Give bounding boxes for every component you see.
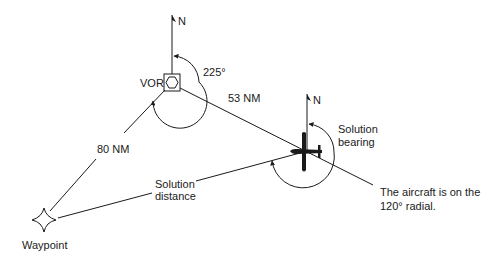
vor-north-reference: N — [172, 15, 186, 74]
solution-distance-label-line1: Solution — [155, 178, 195, 190]
vor-station-icon — [164, 74, 180, 91]
aircraft-icon — [290, 132, 322, 172]
waypoint-vor-distance-label: 80 NM — [97, 143, 129, 155]
radial-angle-label: 225° — [203, 66, 226, 78]
vor-north-label: N — [178, 15, 186, 27]
waypoint-vor-line-lower — [50, 159, 96, 211]
waypoint-label: Waypoint — [22, 239, 67, 251]
north-arrow-icon — [172, 15, 176, 22]
solution-bearing-label-line2: bearing — [338, 136, 375, 148]
vor-label: VOR — [140, 77, 164, 89]
aircraft-north-label: N — [313, 94, 321, 106]
aircraft-note-line2: 120° radial. — [380, 200, 436, 212]
waypoint-vor-line-upper — [124, 90, 165, 133]
solution-distance-label-line2: distance — [155, 190, 196, 202]
solution-bearing-arc-start — [309, 124, 334, 152]
solution-bearing-label-line1: Solution — [338, 123, 378, 135]
aircraft-north-reference: N — [307, 94, 321, 150]
aircraft-note-line1: The aircraft is on the — [380, 186, 480, 198]
solution-distance-line-left — [58, 193, 152, 218]
north-arrow-icon — [307, 94, 311, 101]
solution-distance-line-right — [196, 153, 300, 181]
waypoint-star-icon — [32, 208, 56, 232]
vor-waypoint-diagram: N VOR 225° 53 NM 80 NM Solution distance… — [0, 0, 493, 258]
vor-aircraft-distance-label: 53 NM — [228, 92, 260, 104]
